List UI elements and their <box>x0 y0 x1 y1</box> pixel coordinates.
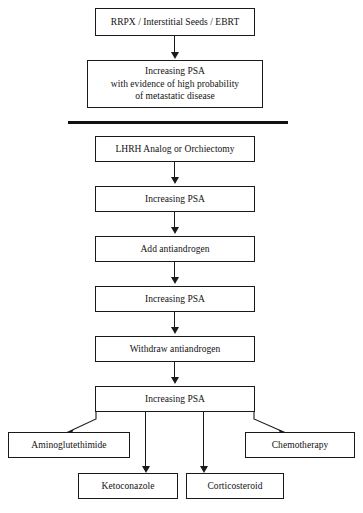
arrowhead-lhrh-to-psa1 <box>171 177 179 184</box>
connector-psa3-to-corticosteroid <box>203 412 204 470</box>
node-lhrh-orchiectomy: LHRH Analog or Orchiectomy <box>95 136 255 162</box>
node-withdraw-antiandrogen: Withdraw antiandrogen <box>95 336 255 362</box>
node-lhrh-orchiectomy-label: LHRH Analog or Orchiectomy <box>115 143 234 156</box>
connector-psa3-to-chemotherapy <box>254 412 286 433</box>
node-corticosteroid: Corticosteroid <box>186 473 284 499</box>
node-psa-rise-metastatic-line3: of metastatic disease <box>135 90 215 103</box>
node-psa-rise-1-label: Increasing PSA <box>145 193 205 206</box>
node-psa-rise-metastatic-line2: with evidence of high probability <box>111 78 239 91</box>
node-add-antiandrogen: Add antiandrogen <box>95 236 255 262</box>
arrowhead-corticosteroid <box>200 466 208 473</box>
arrowhead-initial-to-psa-metastatic <box>171 52 179 59</box>
node-initial-therapy-label: RRPX / Interstitial Seeds / EBRT <box>111 16 240 29</box>
node-psa-rise-2: Increasing PSA <box>95 286 255 312</box>
arrowhead-withdraw-to-psa3 <box>171 377 179 384</box>
arrowhead-psa2-to-withdraw <box>171 327 179 334</box>
node-add-antiandrogen-label: Add antiandrogen <box>140 243 209 256</box>
node-chemotherapy: Chemotherapy <box>245 432 355 458</box>
node-withdraw-antiandrogen-label: Withdraw antiandrogen <box>130 343 221 356</box>
section-divider <box>68 121 288 124</box>
connector-psa3-to-ketoconazole <box>145 412 146 470</box>
node-psa-rise-3: Increasing PSA <box>95 386 255 412</box>
connector-psa3-to-aminoglutethimide <box>66 412 96 433</box>
arrowhead-psa1-to-add-antiandrogen <box>171 227 179 234</box>
node-psa-rise-2-label: Increasing PSA <box>145 293 205 306</box>
node-chemotherapy-label: Chemotherapy <box>272 439 329 452</box>
node-psa-rise-metastatic-line1: Increasing PSA <box>145 65 205 78</box>
arrowhead-ketoconazole <box>142 466 150 473</box>
node-corticosteroid-label: Corticosteroid <box>207 480 262 493</box>
node-ketoconazole: Ketoconazole <box>78 473 178 499</box>
node-aminoglutethimide-label: Aminoglutethimide <box>31 439 106 452</box>
node-psa-rise-1: Increasing PSA <box>95 186 255 212</box>
node-psa-rise-3-label: Increasing PSA <box>145 393 205 406</box>
node-ketoconazole-label: Ketoconazole <box>102 480 155 493</box>
node-initial-therapy: RRPX / Interstitial Seeds / EBRT <box>95 8 255 36</box>
arrowhead-add-to-psa2 <box>171 277 179 284</box>
node-aminoglutethimide: Aminoglutethimide <box>8 432 130 458</box>
flowchart-canvas: RRPX / Interstitial Seeds / EBRT Increas… <box>0 0 363 513</box>
node-psa-rise-metastatic: Increasing PSA with evidence of high pro… <box>87 60 263 108</box>
